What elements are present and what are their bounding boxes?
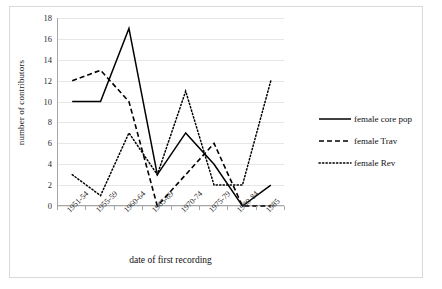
y-tick-label: 6 [48,138,52,148]
legend-label: female Rev [352,158,395,168]
legend-label: female core pop [352,114,412,124]
x-axis-title: date of first recording [57,255,284,265]
legend-swatch-solid-icon [318,114,352,124]
x-axis-labels: 1951-541955-591960-641965-691970-741975-… [57,208,317,248]
legend-swatch-dashed-icon [318,136,352,146]
legend-label: female Trav [352,136,397,146]
y-tick-label: 10 [44,97,53,107]
y-tick-label: 2 [48,180,52,190]
y-tick-label: 18 [44,13,53,23]
y-tick-label: 4 [48,159,52,169]
legend-item[interactable]: female Rev [318,152,418,174]
plot-area [57,18,284,206]
y-tick-label: 12 [44,76,53,86]
y-tick-label: 16 [44,34,53,44]
legend-item[interactable]: female core pop [318,108,418,130]
y-tick-label: 8 [48,117,52,127]
y-tick-label: 14 [44,55,53,65]
legend-swatch-dotted-icon [318,158,352,168]
chart-legend: female core popfemale Travfemale Rev [318,108,418,174]
chart-figure: number of contributors 181614121086420 1… [0,0,442,289]
series-lines [58,18,285,206]
y-axis-labels: 181614121086420 [0,0,57,188]
legend-item[interactable]: female Trav [318,130,418,152]
series-line [72,28,271,206]
y-tick-label: 0 [48,201,52,211]
